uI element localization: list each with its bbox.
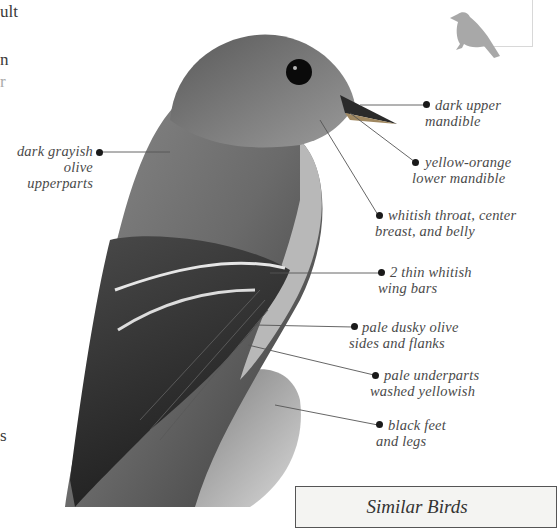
callout-line: mandible (425, 113, 545, 129)
callout-line: yellow-orange (425, 154, 545, 170)
callout-upperparts: dark grayish olive upperparts (0, 143, 93, 191)
callout-dot (378, 269, 385, 276)
callout-dot (351, 323, 358, 330)
callout-line: dark grayish (0, 143, 93, 159)
similar-birds-title: Similar Birds (296, 496, 538, 518)
bird-silhouette-icon (448, 8, 503, 60)
similar-birds-panel: Similar Birds (295, 486, 557, 528)
callout-line: pale underparts (384, 367, 524, 383)
callout-throat: whitish throat, center breast, and belly (388, 207, 548, 239)
callout-line: whitish throat, center (388, 207, 548, 223)
callout-line: washed yellowish (370, 383, 524, 399)
callout-dot (96, 149, 103, 156)
callout-line: olive upperparts (3, 159, 93, 191)
callout-underparts: pale underparts washed yellowish (384, 367, 524, 399)
callout-line: wing bars (378, 280, 530, 296)
callout-line: and legs (376, 433, 508, 449)
callout-dot (372, 372, 379, 379)
callout-dot (412, 159, 419, 166)
callout-line: pale dusky olive (362, 319, 502, 335)
callout-wing-bars: 2 thin whitish wing bars (390, 264, 530, 296)
callout-sides: pale dusky olive sides and flanks (362, 319, 502, 351)
callout-line: 2 thin whitish (390, 264, 530, 280)
callout-line: sides and flanks (349, 335, 502, 351)
callout-line: breast, and belly (375, 223, 548, 239)
callout-dot (376, 421, 383, 428)
callout-line: dark upper (435, 97, 545, 113)
callout-dot (376, 212, 383, 219)
callout-line: lower mandible (412, 170, 545, 186)
callout-feet: black feet and legs (388, 417, 508, 449)
callout-dot (423, 101, 430, 108)
callout-upper-mandible: dark upper mandible (435, 97, 545, 129)
callout-line: black feet (388, 417, 508, 433)
callout-lower-mandible: yellow-orange lower mandible (425, 154, 545, 186)
